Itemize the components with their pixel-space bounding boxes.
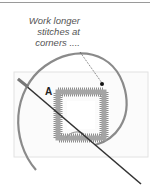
caption: Work longer stitches at corners .... [6, 15, 80, 48]
label-a: A [45, 86, 52, 97]
caption-line-1: Work longer [6, 15, 80, 26]
caption-line-2: stitches at [6, 26, 80, 37]
caption-line-3: corners .... [6, 37, 80, 48]
leader-dot [100, 82, 104, 86]
